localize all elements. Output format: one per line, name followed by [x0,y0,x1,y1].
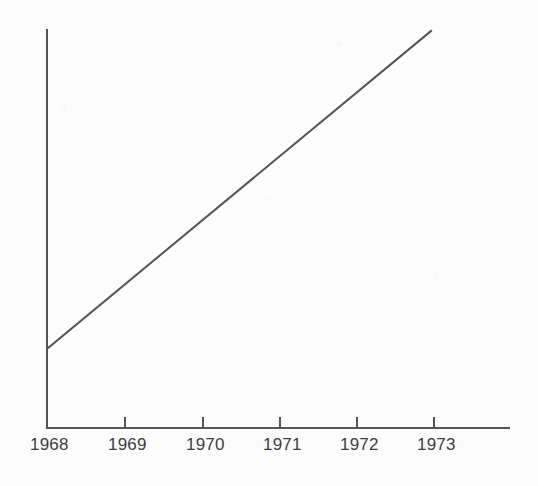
x-tick-label-1973: 1973 [417,436,456,453]
x-axis-ticks [125,417,434,428]
x-tick-label-1971: 1971 [263,436,302,453]
x-tick-label-1968: 1968 [30,436,69,453]
chart-figure: 1968 1969 1970 1971 1972 1973 [0,0,538,486]
x-tick-label-1972: 1972 [340,436,379,453]
line-chart-plot [0,0,538,486]
data-series-trend [48,31,431,348]
x-tick-label-1969: 1969 [108,436,147,453]
x-tick-label-1970: 1970 [186,436,225,453]
